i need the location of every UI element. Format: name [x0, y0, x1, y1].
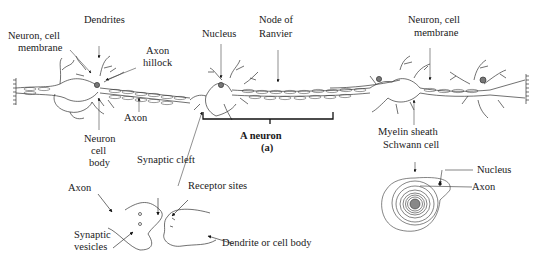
label-neuron-cell-body-3: body: [89, 157, 110, 169]
synapse-diagram: [98, 194, 234, 250]
diagram-title: A neuron: [240, 130, 282, 142]
neuron-3: [370, 56, 430, 114]
label-axon-hillock-1: Axon: [146, 45, 169, 57]
label-nucleus-cross: Nucleus: [477, 164, 511, 176]
neuron-4: [450, 60, 525, 118]
label-axon-cross: Axon: [472, 181, 495, 193]
label-dendrites: Dendrites: [84, 14, 125, 26]
label-synaptic-cleft: Synaptic cleft: [137, 154, 195, 166]
label-synaptic-vesicles-1: Synaptic: [74, 229, 111, 241]
myelin-cross-section: [382, 162, 473, 231]
label-axon-synapse: Axon: [68, 182, 91, 194]
label-neuron-cell-body-2: cell: [91, 145, 106, 157]
label-dendrite-or-cell-body: Dendrite or cell body: [222, 237, 312, 249]
label-neuron-cell-membrane-right-2: membrane: [414, 27, 458, 39]
label-neuron-cell-body-1: Neuron: [84, 133, 116, 145]
label-neuron-cell-membrane-left-2: membrane: [18, 42, 62, 54]
label-synaptic-vesicles-2: vesicles: [74, 241, 107, 253]
diagram-subtitle: (a): [261, 142, 273, 154]
label-neuron-cell-membrane-right-1: Neuron, cell: [408, 14, 460, 26]
label-axon-hillock-2: hillock: [143, 57, 172, 69]
right-wall: [526, 74, 529, 104]
left-wall: [13, 78, 16, 105]
label-neuron-cell-membrane-left-1: Neuron, cell: [8, 30, 60, 42]
label-myelin-sheath: Myelin sheath: [378, 126, 438, 138]
axon-chain: [16, 79, 490, 103]
neuron-2: [190, 60, 258, 120]
label-node-of-ranvier-2: Ranvier: [259, 28, 292, 40]
label-schwann-cell: Schwann cell: [383, 139, 439, 151]
label-nucleus-top: Nucleus: [202, 28, 236, 40]
neuron-1: [54, 56, 124, 119]
label-node-of-ranvier-1: Node of: [259, 14, 293, 26]
label-receptor-sites: Receptor sites: [188, 180, 247, 192]
label-axon-top: Axon: [124, 112, 147, 124]
